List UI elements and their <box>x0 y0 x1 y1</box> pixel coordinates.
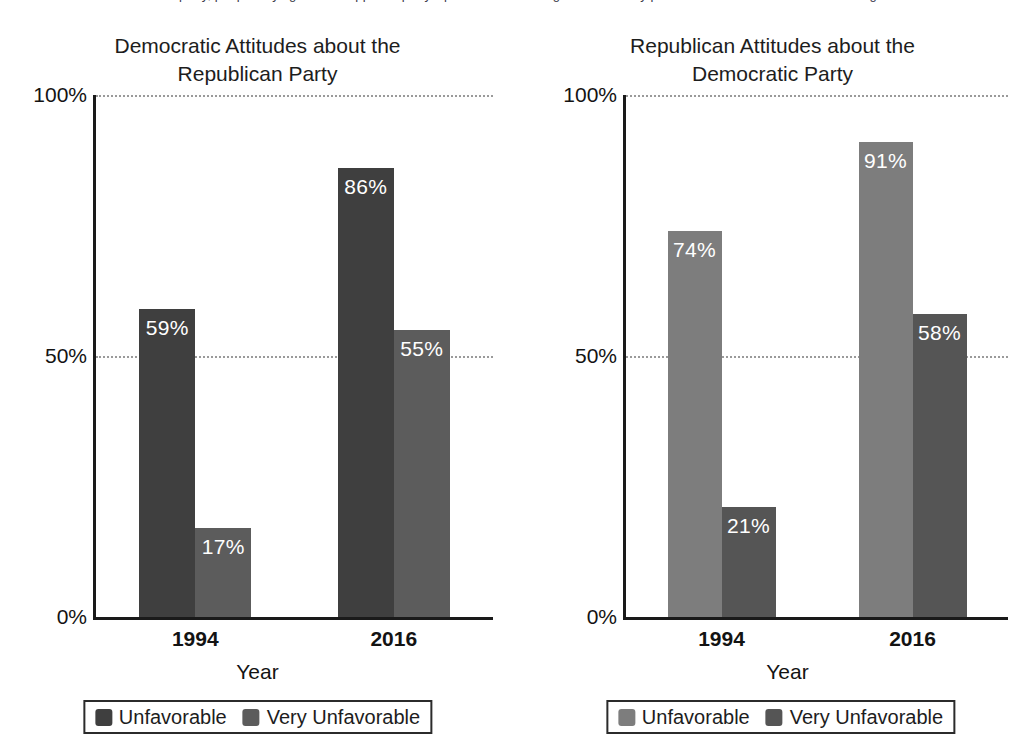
bar-value-label: 17% <box>195 535 251 559</box>
y-tick-50-left: 50% <box>45 344 87 368</box>
y-tick-50-right: 50% <box>575 344 617 368</box>
bar-group-2016-left: 86% 55% 2016 <box>338 95 450 617</box>
chart-title-left: Democratic Attitudes about the Republica… <box>0 32 515 88</box>
chart-panel-republican-attitudes: Republican Attitudes about the Democrati… <box>515 0 1030 753</box>
y-tick-100-left: 100% <box>33 83 87 107</box>
x-tick-2016-left: 2016 <box>338 627 450 651</box>
bar-value-label: 55% <box>394 337 450 361</box>
x-axis-title-right: Year <box>530 660 1030 684</box>
plot-area-left: 100% 50% 0% 59% 17% 1994 86% <box>93 95 493 620</box>
bar-group-1994-left: 59% 17% 1994 <box>139 95 251 617</box>
bar-value-label: 21% <box>722 514 776 538</box>
plot-area-right: 100% 50% 0% 74% 21% 1994 91% <box>623 95 1008 620</box>
y-tick-100-right: 100% <box>563 83 617 107</box>
legend-label: Unfavorable <box>642 706 750 728</box>
bar-right-2016-unfavorable: 91% <box>859 142 913 617</box>
legend-label: Very Unfavorable <box>267 706 420 728</box>
bar-left-2016-unfavorable: 86% <box>338 168 394 617</box>
legend-item-very-unfavorable-left[interactable]: Very Unfavorable <box>243 706 420 728</box>
legend-swatch-icon <box>618 709 635 726</box>
bar-group-1994-right: 74% 21% 1994 <box>668 95 776 617</box>
bar-value-label: 86% <box>338 175 394 199</box>
legend-item-very-unfavorable-right[interactable]: Very Unfavorable <box>766 706 943 728</box>
legend-swatch-icon <box>95 709 112 726</box>
x-tick-2016-right: 2016 <box>859 627 967 651</box>
legend-label: Unfavorable <box>119 706 227 728</box>
chart-title-left-line1: Democratic Attitudes about the <box>0 32 515 60</box>
chart-pair-container: Democratic Attitudes about the Republica… <box>0 0 1030 753</box>
y-tick-0-left: 0% <box>57 605 87 629</box>
bar-left-1994-very-unfavorable: 17% <box>195 528 251 617</box>
bar-left-1994-unfavorable: 59% <box>139 309 195 617</box>
chart-panel-democratic-attitudes: Democratic Attitudes about the Republica… <box>0 0 515 753</box>
bar-right-1994-unfavorable: 74% <box>668 231 722 617</box>
bar-value-label: 74% <box>668 238 722 262</box>
y-tick-0-right: 0% <box>587 605 617 629</box>
bar-group-2016-right: 91% 58% 2016 <box>859 95 967 617</box>
chart-title-right-line1: Republican Attitudes about the <box>515 32 1030 60</box>
bar-groups-right: 74% 21% 1994 91% 58% 2016 <box>626 95 1008 617</box>
bar-right-2016-very-unfavorable: 58% <box>913 314 967 617</box>
bar-value-label: 91% <box>859 149 913 173</box>
x-axis-title-left: Year <box>0 660 515 684</box>
legend-item-unfavorable-left[interactable]: Unfavorable <box>95 706 227 728</box>
legend-right: Unfavorable Very Unfavorable <box>606 700 955 734</box>
legend-swatch-icon <box>243 709 260 726</box>
x-tick-1994-left: 1994 <box>139 627 251 651</box>
bar-left-2016-very-unfavorable: 55% <box>394 330 450 617</box>
bar-value-label: 58% <box>913 321 967 345</box>
chart-title-right: Republican Attitudes about the Democrati… <box>515 32 1030 88</box>
bar-value-label: 59% <box>139 316 195 340</box>
legend-label: Very Unfavorable <box>790 706 943 728</box>
legend-swatch-icon <box>766 709 783 726</box>
bar-right-1994-very-unfavorable: 21% <box>722 507 776 617</box>
legend-left: Unfavorable Very Unfavorable <box>83 700 432 734</box>
legend-item-unfavorable-right[interactable]: Unfavorable <box>618 706 750 728</box>
x-tick-1994-right: 1994 <box>668 627 776 651</box>
bar-groups-left: 59% 17% 1994 86% 55% 2016 <box>96 95 493 617</box>
